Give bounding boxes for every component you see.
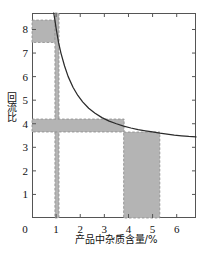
y-tick-label-8: 8: [14, 24, 28, 35]
y-axis-title: 回流比: [4, 92, 16, 122]
y-tick-label-7: 7: [14, 48, 28, 59]
shaded-regions-group: [32, 13, 160, 218]
y-tick-label-1: 1: [14, 189, 28, 200]
shaded-region-right-vertical-band: [124, 132, 160, 218]
shaded-region-upper-horizontal-band: [32, 20, 57, 42]
equilibrium-curve: [54, 13, 196, 137]
y-tick-label-4: 4: [14, 119, 28, 130]
y-tick-label-6: 6: [14, 72, 28, 83]
y-tick-label-3: 3: [14, 142, 28, 153]
reflux-ratio-chart: 012345612345678 产品中杂质含量/% 回流比: [0, 0, 215, 256]
chart-canvas: [0, 0, 215, 256]
y-tick-label-2: 2: [14, 166, 28, 177]
x-tick-label-0: 0: [18, 224, 32, 235]
x-axis-title: 产品中杂质含量/%: [46, 234, 186, 246]
y-tick-label-5: 5: [14, 95, 28, 106]
